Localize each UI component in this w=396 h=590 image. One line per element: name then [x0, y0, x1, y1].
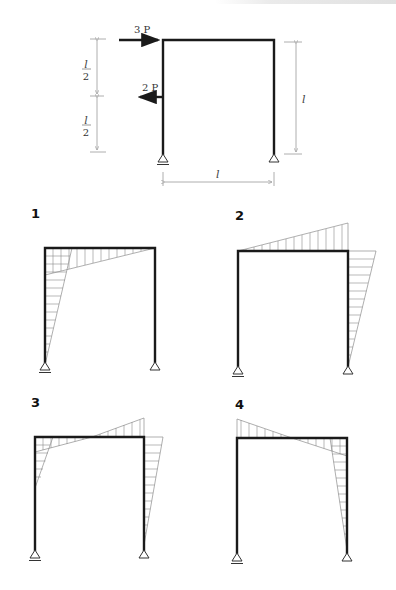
- dim-span-label: l: [216, 168, 220, 181]
- option-2-frame: [238, 251, 348, 366]
- load-3p: 3 P: [119, 24, 158, 40]
- dim-upper-den: 2: [83, 71, 89, 82]
- pin-support-icon: [150, 362, 160, 370]
- pin-support-icon: [269, 154, 279, 162]
- load-3p-label: 3 P: [134, 24, 151, 35]
- pin-support-icon: [139, 550, 149, 558]
- roller-support-icon: [39, 362, 51, 373]
- option-1[interactable]: 1: [31, 206, 160, 373]
- roller-support-icon: [231, 553, 243, 564]
- diagram-canvas: 3 P 2 P l 2 l 2 l: [0, 0, 396, 590]
- frame-members: [163, 40, 274, 154]
- option-3-frame: [35, 437, 144, 550]
- option-1-label: 1: [31, 206, 40, 221]
- dim-lower-den: 2: [83, 127, 89, 138]
- load-2p: 2 P: [140, 82, 162, 97]
- right-dimension: l: [284, 42, 306, 154]
- roller-support-icon: [29, 550, 41, 561]
- problem-frame: 3 P 2 P l 2 l 2 l: [82, 24, 306, 186]
- option-2-label: 2: [235, 208, 244, 223]
- pin-support-icon: [342, 553, 352, 561]
- dim-right-label: l: [302, 93, 306, 106]
- option-4-label: 4: [235, 397, 244, 412]
- option-4-frame: [237, 438, 347, 553]
- left-dimension: l 2 l 2: [82, 39, 106, 152]
- option-3-label: 3: [31, 395, 40, 410]
- option-3[interactable]: 3: [29, 395, 163, 561]
- pin-support-icon: [343, 366, 353, 374]
- roller-support-icon: [157, 154, 169, 165]
- span-dimension: l: [163, 168, 274, 186]
- load-2p-label: 2 P: [142, 82, 159, 93]
- option-2[interactable]: 2: [232, 208, 376, 377]
- roller-support-icon: [232, 366, 244, 377]
- option-1-frame: [45, 248, 155, 362]
- option-4[interactable]: 4: [231, 397, 352, 564]
